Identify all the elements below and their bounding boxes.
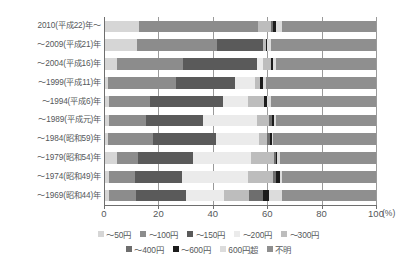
legend-row-1: ～50円～100円～150円～200円～300円 [98,228,319,240]
bar-segment [176,77,234,89]
legend-label: ～200円 [243,228,272,240]
legend-label: ～300円 [290,228,319,240]
legend-label: ～50円 [106,228,131,240]
bar-segment [269,190,281,202]
chart-legend: ～50円～100円～150円～200円～300円 ～400円～600円600円超… [0,228,417,255]
bar-segment [183,58,256,70]
x-tick-label: 0 [101,208,106,219]
x-tick-label: 20 [153,208,164,219]
legend-swatch-icon [126,246,132,252]
bar-segment [135,171,183,183]
bar-segment [276,58,376,70]
bar-segment [249,190,263,202]
bar-segment [257,58,264,70]
bar-segment [271,39,376,51]
bar-segment [282,190,376,202]
bar-segment [235,77,255,89]
bar-row [104,58,376,70]
bar-segment [193,152,251,164]
bar-segment [224,190,248,202]
legend-label: ～600円 [181,243,210,255]
legend-item[interactable]: ～50円 [98,228,131,240]
legend-item[interactable]: ～200円 [234,228,272,240]
bar-segment [146,115,203,127]
bar-segment [153,133,216,145]
bar-segment [109,96,150,108]
bar-segment [117,58,184,70]
bar-segment [182,171,247,183]
legend-swatch-icon [220,246,226,252]
x-tick-label: 80 [316,208,327,219]
bar-segment [258,21,272,33]
y-axis-line [104,17,105,205]
legend-item[interactable]: 不明 [267,243,291,255]
bar-segment [271,96,376,108]
bar-segment [108,133,153,145]
legend-swatch-icon [98,231,104,237]
category-label: ～1994(平成6)年 [42,97,101,107]
bar-segment [216,133,260,145]
bar-segment [248,171,274,183]
legend-swatch-icon [140,231,146,237]
legend-label: 600円超 [228,243,257,255]
bar-segment [104,58,117,70]
bar-segment [280,152,376,164]
category-label: ～1974(昭和49)年 [37,172,101,182]
bar-row [104,133,376,145]
category-label: ～1999(平成11)年 [38,78,101,88]
legend-item[interactable]: ～600円 [173,243,211,255]
category-axis-labels: 2010(平成22)年～～2009(平成21)年～2004(平成16)年～199… [0,17,101,205]
bar-segment [273,133,376,145]
legend-item[interactable]: ～400円 [126,243,164,255]
bar-segment [263,190,270,202]
bar-segment [266,77,376,89]
bar-segment [276,115,376,127]
bar-segment [248,96,264,108]
bar-row [104,96,376,108]
legend-swatch-icon [281,231,287,237]
bar-segment [186,190,224,202]
category-label: ～1979(昭和54)年 [37,153,101,163]
x-axis-line [104,205,377,206]
bar-segment [251,152,274,164]
bar-segment [136,190,186,202]
stacked-bar-chart: 2010(平成22)年～～2009(平成21)年～2004(平成16)年～199… [0,0,417,277]
bar-segment [150,96,223,108]
bar-segment [223,96,247,108]
bar-segment [217,39,263,51]
bar-segment [104,39,137,51]
bar-row [104,39,376,51]
legend-item[interactable]: ～300円 [281,228,319,240]
legend-item[interactable]: 600円超 [220,243,258,255]
bar-segment [282,171,376,183]
legend-label: ～100円 [149,228,178,240]
category-label: ～1984(昭和59)年 [37,134,101,144]
bar-segment [108,77,176,89]
bar-segment [109,171,135,183]
bar-segment [259,133,267,145]
category-label: ～1989(平成元)年 [38,115,101,125]
bar-segment [109,190,136,202]
legend-swatch-icon [187,231,193,237]
legend-swatch-icon [234,231,240,237]
category-label: ～2004(平成16)年 [37,59,101,69]
bar-segment [257,115,269,127]
plot-area [104,17,376,205]
bar-row [104,190,376,202]
x-axis-unit-label: (%) [382,208,395,218]
legend-label: ～150円 [196,228,225,240]
bar-row [104,21,376,33]
legend-swatch-icon [173,246,179,252]
legend-item[interactable]: ～100円 [140,228,178,240]
bar-segment [263,58,271,70]
bar-segment [203,115,257,127]
category-label: ～2009(平成21)年 [37,40,101,50]
bar-segment [109,115,146,127]
legend-swatch-icon [267,246,273,252]
bar-segment [139,21,257,33]
bar-row [104,171,376,183]
legend-item[interactable]: ～150円 [187,228,225,240]
bar-segment [138,152,192,164]
bar-segment [104,21,139,33]
legend-label: 不明 [275,243,291,255]
